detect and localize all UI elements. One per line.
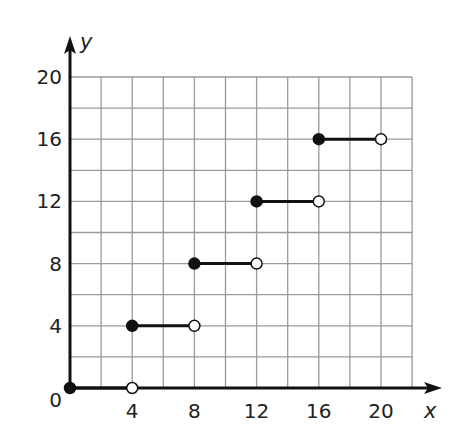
y-tick-label: 4: [49, 314, 62, 338]
y-tick-labels: 048121620: [37, 65, 62, 412]
open-point: [376, 134, 387, 145]
y-tick-label: 16: [37, 127, 62, 151]
closed-point: [313, 134, 324, 145]
x-tick-label: 12: [244, 399, 269, 423]
y-tick-label: 8: [49, 252, 62, 276]
closed-point: [189, 258, 200, 269]
x-tick-labels: 48121620: [126, 399, 394, 423]
closed-point: [127, 320, 138, 331]
y-tick-label: 20: [37, 65, 62, 89]
x-tick-label: 8: [188, 399, 201, 423]
x-axis-label: x: [423, 399, 437, 423]
axes: [64, 36, 442, 394]
open-point: [313, 196, 324, 207]
closed-point: [65, 383, 76, 394]
x-tick-label: 4: [126, 399, 139, 423]
grid: [70, 77, 412, 388]
y-tick-label: 0: [49, 388, 62, 412]
x-tick-label: 20: [368, 399, 393, 423]
y-axis-label: y: [79, 30, 93, 54]
x-tick-label: 16: [306, 399, 331, 423]
step-function-chart: 48121620 048121620 x y: [0, 0, 469, 447]
open-point: [127, 383, 138, 394]
open-point: [251, 258, 262, 269]
y-tick-label: 12: [37, 189, 62, 213]
open-point: [189, 320, 200, 331]
closed-point: [251, 196, 262, 207]
